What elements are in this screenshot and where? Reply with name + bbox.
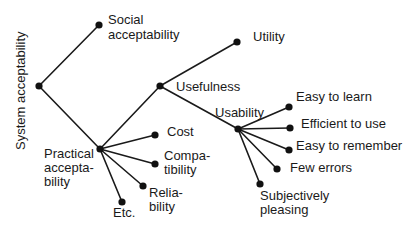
label-system-acceptability: System acceptability [13, 31, 28, 150]
label-etc: Etc. [113, 205, 135, 220]
node-compatibility [151, 160, 158, 167]
label-cost: Cost [167, 124, 194, 139]
node-practical [96, 145, 103, 152]
node-usability [234, 125, 241, 132]
label-reliability-line2: bility [149, 199, 176, 214]
edge-practical-usefulness [100, 86, 160, 149]
node-social [95, 21, 102, 28]
label-easy-to-remember: Easy to remember [296, 138, 403, 153]
label-social-line1: Social [108, 12, 144, 27]
node-usefulness [156, 82, 163, 89]
edge-usability-efficient-to-use [238, 128, 290, 129]
edge-practical-etc [100, 149, 122, 202]
label-practical-line2: accepta- [44, 160, 94, 175]
labels: System acceptability Social acceptabilit… [13, 12, 403, 220]
edge-usability-few-errors [238, 129, 277, 169]
node-efficient-to-use [286, 124, 293, 131]
label-utility: Utility [253, 29, 285, 44]
label-subjectively-line2: pleasing [260, 202, 308, 217]
edge-root-social [39, 25, 99, 86]
system-acceptability-diagram: System acceptability Social acceptabilit… [0, 0, 416, 228]
node-few-errors [273, 165, 280, 172]
label-efficient-to-use: Efficient to use [301, 116, 386, 131]
node-root [35, 82, 42, 89]
node-subjectively-pleasing [256, 180, 263, 187]
node-easy-to-remember [285, 146, 292, 153]
node-cost [151, 131, 158, 138]
label-easy-to-learn: Easy to learn [296, 89, 372, 104]
label-reliability-line1: Relia- [149, 185, 183, 200]
label-subjectively-line1: Subjectively [260, 188, 330, 203]
edge-root-practical [39, 86, 100, 149]
edge-practical-cost [100, 135, 155, 149]
label-few-errors: Few errors [290, 160, 353, 175]
label-social-line2: acceptability [108, 27, 180, 42]
node-easy-to-learn [285, 103, 292, 110]
label-compatibility-line1: Compa- [164, 148, 210, 163]
node-reliability [139, 182, 146, 189]
label-practical-line3: bility [44, 174, 71, 189]
label-usefulness: Usefulness [176, 79, 241, 94]
node-utility [233, 38, 240, 45]
label-compatibility-line2: tibility [164, 162, 197, 177]
label-practical-line1: Practical [44, 146, 94, 161]
label-usability: Usability [215, 105, 265, 120]
